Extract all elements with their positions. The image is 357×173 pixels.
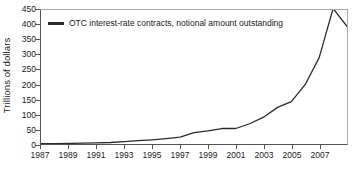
x-axis-tick-mark bbox=[292, 145, 293, 149]
chart-figure: Trillions of dollars 0501001502002503003… bbox=[0, 0, 357, 173]
x-axis-tick-mark bbox=[152, 145, 153, 149]
x-axis-tick-mark bbox=[208, 145, 209, 149]
y-axis-tick-mark bbox=[35, 130, 40, 131]
y-axis-tick-mark bbox=[35, 54, 40, 55]
x-axis-tick-mark bbox=[124, 145, 125, 149]
x-axis-tick-mark bbox=[40, 145, 41, 149]
y-axis-title: Trillions of dollars bbox=[0, 0, 14, 150]
x-axis-tick-label: 2003 bbox=[255, 151, 274, 160]
y-axis-tick-label: 100 bbox=[22, 111, 36, 120]
y-axis-tick-label: 350 bbox=[22, 35, 36, 44]
x-axis-tick-mark bbox=[320, 145, 321, 149]
x-axis-tick-mark bbox=[236, 145, 237, 149]
x-axis-tick-label: 1991 bbox=[87, 151, 106, 160]
x-axis-tick-label: 2007 bbox=[311, 151, 330, 160]
x-axis-tick-label: 1987 bbox=[31, 151, 50, 160]
series-line-otc-interest-rate-contracts bbox=[41, 10, 347, 144]
plot-area bbox=[40, 9, 348, 145]
y-axis-tick-mark bbox=[35, 115, 40, 116]
legend-label: OTC interest-rate contracts, notional am… bbox=[69, 19, 283, 28]
legend-line-swatch bbox=[48, 22, 64, 25]
x-axis-tick-label: 1997 bbox=[171, 151, 190, 160]
x-axis-tick-mark bbox=[96, 145, 97, 149]
y-axis-tick-label: 300 bbox=[22, 50, 36, 59]
y-axis-tick-label: 200 bbox=[22, 80, 36, 89]
x-axis-tick-label: 1993 bbox=[115, 151, 134, 160]
x-axis-tick-label: 2005 bbox=[283, 151, 302, 160]
y-axis-tick-label: 400 bbox=[22, 20, 36, 29]
y-axis-tick-mark bbox=[35, 69, 40, 70]
chart-legend: OTC interest-rate contracts, notional am… bbox=[48, 19, 283, 28]
y-axis-tick-label: 250 bbox=[22, 65, 36, 74]
y-axis-tick-labels: 050100150200250300350400450 bbox=[14, 0, 38, 150]
x-axis-tick-label: 2001 bbox=[227, 151, 246, 160]
y-axis-tick-label: 450 bbox=[22, 5, 36, 14]
x-axis-tick-mark bbox=[180, 145, 181, 149]
y-axis-title-text: Trillions of dollars bbox=[2, 37, 13, 113]
series-line-chart bbox=[41, 10, 347, 144]
x-axis-tick-label: 1989 bbox=[59, 151, 78, 160]
y-axis-tick-mark bbox=[35, 9, 40, 10]
y-axis-tick-mark bbox=[35, 24, 40, 25]
x-axis-tick-label: 1999 bbox=[199, 151, 218, 160]
y-axis-tick-label: 150 bbox=[22, 95, 36, 104]
x-axis-tick-mark bbox=[68, 145, 69, 149]
y-axis-tick-mark bbox=[35, 85, 40, 86]
x-axis-tick-label: 1995 bbox=[143, 151, 162, 160]
y-axis-tick-mark bbox=[35, 100, 40, 101]
x-axis-tick-mark bbox=[264, 145, 265, 149]
y-axis-tick-mark bbox=[35, 39, 40, 40]
